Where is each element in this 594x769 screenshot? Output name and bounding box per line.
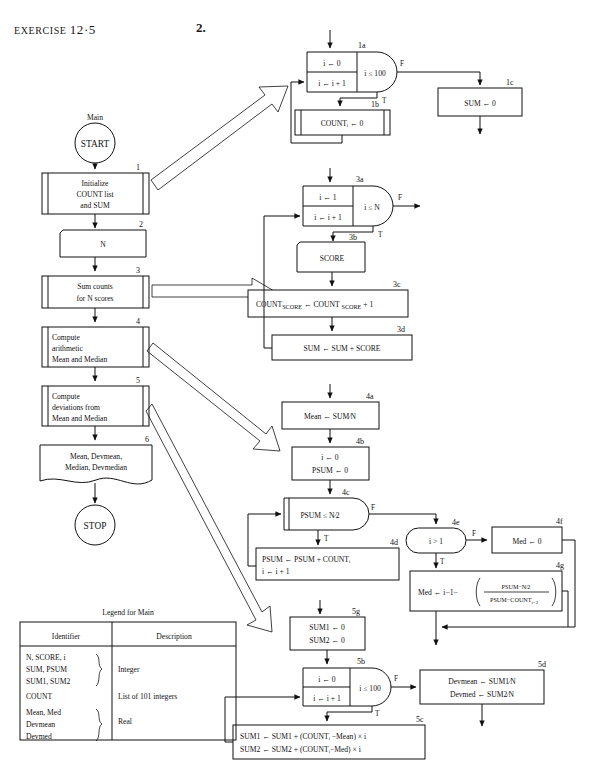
module-1-exit-id: 1c — [506, 78, 514, 87]
main-box-6-line-2: Median, Devmedian — [65, 463, 127, 472]
module-5-loop-5b: 5b i ← 0 i ← i + 1 i ≤ 100 — [303, 657, 391, 706]
module-4-mean-id: 4a — [366, 392, 374, 401]
main-box-3-line-1: Sum counts — [77, 282, 113, 291]
module-1-loop-test: i ≤ 100 — [364, 69, 386, 78]
module-5-accum-line-1: SUM1 ← SUM1 + (COUNTᵢ −Mean) × i — [240, 732, 366, 741]
legend-column-header-0: Identifier — [52, 632, 81, 641]
main-box-6: 6 Mean, Devmean, Median, Devmedian — [40, 435, 152, 484]
module-5-result-line-1: Devmean ← SUM1∕N — [448, 677, 516, 686]
module-1-loop-init: i ← 0 — [323, 59, 341, 68]
module-4-test-id: 4e — [452, 518, 460, 527]
module-3-loop-3a: 3a i ← 1 i ← i + 1 i ≤ N — [303, 175, 393, 226]
main-box-1-line-3: and SUM — [80, 201, 110, 210]
expansion-arrow-4 — [147, 343, 280, 451]
module-4-med-zero-4f: 4f Med ← 0 — [492, 517, 563, 553]
main-box-4-line-3: Mean and Median — [52, 355, 107, 364]
module-5-result-id: 5d — [538, 660, 546, 669]
module-1-false-path — [397, 72, 480, 85]
main-box-3-line-2: for N scores — [76, 294, 113, 303]
legend-row-2-identifier-0: Mean, Med — [26, 708, 61, 717]
module-3-true-label: T — [378, 231, 383, 239]
module-3-loop-test: i ≤ N — [364, 203, 380, 212]
main-box-6-id: 6 — [145, 435, 149, 444]
expansion-arrow-5 — [146, 404, 272, 632]
legend-title: Legend for Main — [102, 608, 154, 617]
module-4-mean-text: Mean ← SUM∕N — [304, 412, 356, 421]
legend-row-0: N, SCORE, i SUM, PSUM SUM1, SUM2 Integer — [26, 653, 140, 686]
module-3-loop-init: i ← 1 — [319, 193, 337, 202]
module-3-sum-text: SUM ← SUM + SCORE — [304, 344, 381, 353]
module-1-body-1b: 1b COUNTᵢ ← 0 — [295, 100, 390, 135]
module-4-accum-line-2: i ← i + 1 — [262, 567, 290, 576]
module-3-false-label: F — [398, 194, 402, 202]
legend-row-2-identifier-1: Devmean — [26, 720, 55, 729]
module-5-result-line-2: Devmed ← SUM2∕N — [450, 690, 515, 699]
legend-row-0-brace — [96, 654, 102, 686]
module-4-init-4b: 4b i ← 0 PSUM ← 0 — [292, 437, 369, 480]
main-box-2-id: 2 — [139, 220, 143, 229]
module-3-loopback — [264, 216, 300, 348]
main-box-5-line-3: Mean and Median — [52, 414, 107, 423]
main-box-1-id: 1 — [136, 163, 140, 172]
module-3-read-3b: 3b SCORE — [297, 233, 365, 272]
module-1-group: 1a i ← 0 i ← i + 1 i ≤ 100 F T 1b COUNTᵢ… — [291, 30, 522, 143]
module-1-loop-incr: i ← i + 1 — [318, 79, 346, 88]
module-5-accum-id: 5c — [416, 715, 424, 724]
main-flow-group: Main START 1 Initialize COUNT list and S… — [40, 113, 152, 545]
module-5-init-5g: 5g SUM1 ← 0 SUM2 ← 0 — [290, 607, 365, 650]
legend-column-header-1: Description — [156, 632, 192, 641]
legend-row-0-identifier-2: SUM1, SUM2 — [26, 677, 71, 686]
legend-row-1: COUNT List of 101 integers — [26, 692, 177, 701]
module-4-test-true-label: T — [440, 558, 445, 566]
module-5-init-line-1: SUM1 ← 0 — [309, 623, 345, 632]
module-4-false-path — [369, 514, 436, 524]
module-1-false-label: F — [400, 60, 404, 68]
main-box-3-id: 3 — [136, 266, 140, 275]
main-box-1: 1 Initialize COUNT list and SUM — [42, 163, 149, 214]
module-5-loop-id: 5b — [357, 657, 365, 666]
module-5-loop-init: i ← 0 — [318, 675, 336, 684]
module-1-true-label: T — [382, 97, 387, 105]
legend-row-1-description: List of 101 integers — [118, 692, 177, 701]
module-3-count-id: 3c — [393, 280, 401, 289]
module-5-init-id: 5g — [352, 607, 360, 616]
module-1-loop-1a: 1a i ← 0 i ← i + 1 i ≤ 100 — [307, 41, 397, 92]
main-box-1-line-2: COUNT list — [76, 190, 114, 199]
legend-row-2-identifier-2: Devmed — [26, 732, 52, 741]
legend-row-0-identifier-1: SUM, PSUM — [26, 665, 67, 674]
flowchart-page: EXERCISE 12·5 2. Main START 1 Ini — [0, 0, 594, 769]
module-3-group: 3a i ← 1 i ← i + 1 i ≤ N F T 3b SCORE 3c… — [248, 168, 420, 360]
module-1-exit-text: SUM ← 0 — [464, 99, 496, 108]
legend-row-2-description: Real — [118, 717, 132, 726]
main-box-5-line-2: deviations from — [52, 403, 100, 412]
module-4-test-false-label: F — [472, 530, 476, 538]
module-4-med-zero-text: Med ← 0 — [512, 537, 541, 546]
main-box-5-id: 5 — [136, 376, 140, 385]
main-box-5-line-1: Compute — [52, 392, 80, 401]
module-1-body-text: COUNTᵢ ← 0 — [321, 119, 364, 128]
module-5-loop-incr: i ← i + 1 — [313, 694, 341, 703]
module-5-true-label: T — [375, 710, 380, 718]
main-box-4-id: 4 — [136, 317, 140, 326]
main-box-4-line-1: Compute — [52, 333, 80, 342]
module-4-merge-from-4g — [562, 591, 568, 627]
legend-group: Legend for Main Identifier Description N… — [20, 608, 236, 741]
main-box-5: 5 Compute deviations from Mean and Media… — [42, 376, 149, 426]
module-4-init-id: 4b — [356, 437, 364, 446]
main-box-4-line-2: arithmetic — [52, 344, 83, 353]
module-3-read-id: 3b — [349, 233, 357, 242]
module-4-loop-id: 4c — [342, 488, 350, 497]
module-5-init-line-2: SUM2 ← 0 — [309, 636, 345, 645]
module-4-accum-id: 4d — [390, 538, 398, 547]
module-5-accum-5c: 5c SUM1 ← SUM1 + (COUNTᵢ −Mean) × i SUM2… — [233, 715, 425, 759]
module-3-read-text: SCORE — [320, 254, 345, 263]
module-4-group: 4a Mean ← SUM∕N 4b i ← 0 PSUM ← 0 4c PSU… — [248, 384, 575, 645]
legend-row-0-description: Integer — [118, 665, 140, 674]
module-4-true-label: T — [324, 535, 329, 543]
legend-row-1-identifier-0: COUNT — [26, 692, 53, 701]
main-box-6-line-1: Mean, Devmean, — [70, 452, 122, 461]
module-5-group: 5g SUM1 ← 0 SUM2 ← 0 5b i ← 0 i ← i + 1 … — [225, 600, 546, 759]
module-5-false-label: F — [394, 675, 398, 683]
module-5-true-path — [327, 706, 372, 721]
module-3-loop-incr: i ← i + 1 — [314, 213, 342, 222]
